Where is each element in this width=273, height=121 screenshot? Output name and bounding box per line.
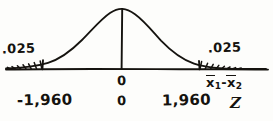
x-bar-2: x	[227, 75, 236, 90]
alpha-right-label: .025	[208, 40, 242, 56]
x-bar-2-subscript: 2	[236, 81, 243, 91]
alpha-left-label: .025	[2, 41, 36, 57]
bell-curve	[6, 9, 266, 69]
critical-value-left-label: -1,960	[17, 91, 73, 110]
center-vertical-line	[122, 10, 123, 69]
center-zero-secondary-label: 0	[117, 93, 127, 108]
x-bar-1: x	[206, 75, 215, 90]
normal-distribution-figure: .025 .025 0 0 -1,960 1,960 x1-x2 Z	[0, 0, 273, 121]
left-critical-tick	[42, 60, 43, 69]
axis-label-z: Z	[230, 94, 241, 112]
center-zero-primary-label: 0	[117, 73, 127, 88]
axis-label-mean-difference: x1-x2	[206, 75, 242, 91]
critical-value-right-label: 1,960	[162, 91, 211, 110]
